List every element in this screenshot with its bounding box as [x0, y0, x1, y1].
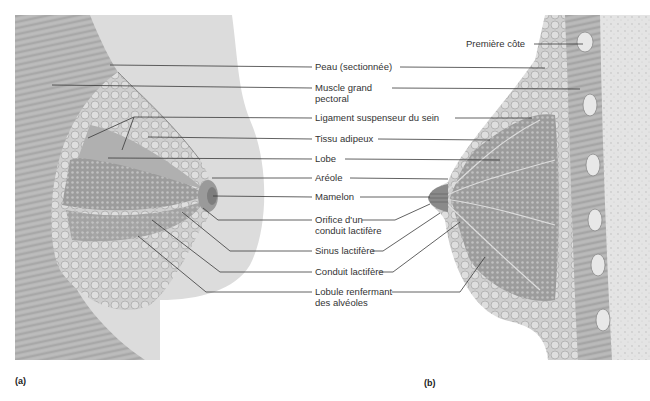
panel-b-illustration [428, 15, 650, 360]
label-duct-opening-line1: Orifice d'un [315, 214, 363, 225]
label-lactiferous-duct: Conduit lactifère [315, 266, 384, 277]
label-lobule-line1: Lobule renfermant [315, 286, 392, 297]
label-adipose-tissue: Tissu adipeux [315, 133, 373, 144]
label-lobule-line2: des alvéoles [315, 297, 368, 308]
panel-label-b: (b) [424, 378, 436, 388]
label-first-rib: Première côte [466, 38, 525, 49]
panel-a-illustration [15, 15, 264, 360]
label-suspensory-ligament: Ligament suspenseur du sein [315, 112, 439, 123]
label-duct-opening-line2: conduit lactifère [315, 225, 382, 236]
label-lactiferous-sinus: Sinus lactifère [315, 245, 375, 256]
label-skin: Peau (sectionnée) [315, 61, 392, 72]
panel-label-a: (a) [15, 376, 26, 386]
label-nipple: Mamelon [315, 191, 354, 202]
anatomy-figure: Peau (sectionnée) Muscle grand pectoral … [0, 0, 650, 401]
label-pectoral-muscle-line2: pectoral [315, 93, 349, 104]
label-areola: Aréole [315, 172, 342, 183]
label-lobe: Lobe [315, 153, 336, 164]
label-pectoral-muscle-line1: Muscle grand [315, 82, 372, 93]
